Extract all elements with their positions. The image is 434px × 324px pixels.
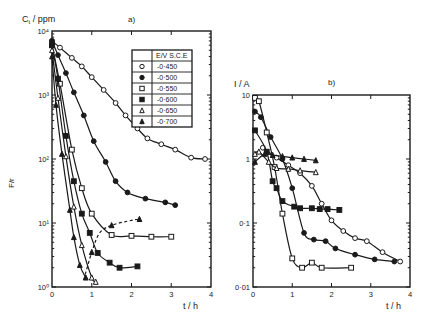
xtick-label: 2 [129, 290, 133, 299]
open-square-marker [290, 256, 295, 261]
filled-square-marker [117, 265, 122, 270]
xtick-label: 4 [408, 290, 412, 299]
open-square-marker [149, 234, 154, 239]
filled-square-marker [87, 231, 92, 236]
filled-circle-marker [143, 196, 148, 201]
open-square-marker [109, 233, 114, 238]
open-circle-marker [159, 142, 164, 147]
filled-triangle-marker [137, 216, 142, 221]
open-square-marker [129, 233, 134, 238]
filled-square-marker [140, 97, 144, 101]
panel-b-xtick-labels: 01234 [251, 290, 412, 299]
filled-circle-marker [81, 113, 86, 118]
series-dashed-0-650-regrowth- [84, 216, 142, 279]
legend-entry-label: -0·550 [157, 85, 177, 92]
open-circle-marker [101, 88, 106, 93]
series--0-700 [253, 151, 319, 164]
legend-entry-label: -0·650 [157, 107, 177, 114]
open-circle-marker [189, 155, 194, 160]
filled-circle-marker [392, 259, 397, 264]
filled-square-marker [107, 260, 112, 265]
filled-square-marker [298, 206, 303, 211]
series--0-650 [253, 149, 319, 175]
open-triangle-marker [313, 169, 318, 174]
filled-circle-marker [125, 190, 130, 195]
open-circle-marker [329, 218, 334, 223]
filled-square-marker [309, 206, 314, 211]
open-circle-marker [58, 45, 63, 50]
filled-circle-marker [268, 135, 273, 140]
legend-entry-label: -0·450 [157, 63, 177, 70]
open-triangle-marker [50, 47, 55, 52]
open-square-marker [256, 99, 261, 104]
panel-b-xlabel: t / h [386, 301, 401, 311]
xtick-label: 3 [169, 290, 173, 299]
filled-circle-marker [113, 179, 118, 184]
filled-triangle-marker [290, 155, 295, 160]
open-circle-marker [341, 229, 346, 234]
filled-circle-marker [333, 246, 338, 251]
open-square-marker [300, 265, 305, 270]
open-circle-marker [380, 250, 385, 255]
panel-a-xlabel: t / h [183, 301, 198, 311]
xtick-label: 2 [329, 290, 333, 299]
open-circle-marker [353, 236, 358, 241]
filled-triangle-marker [313, 158, 318, 163]
filled-triangle-marker [54, 102, 59, 107]
xtick-label: 4 [209, 290, 213, 299]
filled-circle-marker [64, 71, 69, 76]
filled-circle-marker [163, 200, 168, 205]
filled-square-marker [325, 207, 330, 212]
filled-square-marker [95, 251, 100, 256]
xtick-label: 1 [290, 290, 294, 299]
open-circle-marker [173, 147, 178, 152]
filled-circle-marker [91, 139, 96, 144]
filled-triangle-marker [77, 262, 82, 267]
filled-square-marker [79, 211, 84, 216]
ytick-label: 10 [242, 91, 250, 100]
filled-square-marker [274, 186, 279, 191]
open-triangle-marker [298, 168, 303, 173]
xtick-label: 0 [251, 290, 255, 299]
open-circle-marker [89, 75, 94, 80]
open-circle-marker [364, 239, 369, 244]
panel-b-ytick-labels: 0·010·1110 [235, 91, 250, 292]
open-circle-marker [140, 64, 144, 68]
open-triangle-marker [79, 242, 84, 247]
open-circle-marker [69, 55, 74, 60]
filled-circle-marker [290, 186, 295, 191]
filled-circle-marker [140, 75, 144, 79]
figure: Ct / ppm a) F/r t / h 10⁰10¹10²10³10⁴ 01… [0, 0, 434, 324]
filled-circle-marker [71, 90, 76, 95]
xtick-label: 0 [50, 290, 54, 299]
legend: E/V S.C.E-0·450-0·500-0·550-0·600-0·650-… [132, 50, 192, 127]
series--0-650 [50, 47, 99, 284]
ytick-label: 0·1 [239, 219, 250, 228]
panel-a-ylabel: Ct / ppm [22, 14, 55, 25]
legend-header: E/V S.C.E [156, 52, 188, 59]
xtick-label: 3 [369, 290, 373, 299]
filled-circle-marker [372, 257, 377, 262]
ytick-label: 10⁰ [38, 283, 49, 292]
open-square-marker [319, 265, 324, 270]
filled-square-marker [270, 179, 275, 184]
legend-entry-label: -0·600 [157, 96, 177, 103]
filled-square-marker [64, 133, 69, 138]
panel-b-curves [253, 96, 403, 271]
filled-circle-marker [323, 239, 328, 244]
filled-circle-marker [173, 203, 178, 208]
open-square-marker [79, 186, 84, 191]
open-square-marker [69, 147, 74, 152]
panel-a-side-label: F/r [7, 178, 16, 188]
panel-a-label: a) [128, 15, 135, 24]
ytick-label: 0·01 [235, 283, 250, 292]
filled-circle-marker [311, 237, 316, 242]
panel-b-label: b) [328, 78, 335, 87]
filled-circle-marker [302, 231, 307, 236]
open-circle-marker [113, 101, 118, 106]
open-square-marker [264, 130, 269, 135]
open-circle-marker [79, 64, 84, 69]
ytick-label: 10⁴ [37, 27, 49, 36]
filled-circle-marker [56, 53, 61, 58]
ytick-label: 10² [38, 155, 49, 164]
